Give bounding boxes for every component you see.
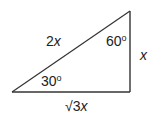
triangle-diagram: 2x 60o x 30o √3x <box>0 0 156 121</box>
base-label: √3x <box>65 99 87 113</box>
bottom-angle-value: 30 <box>41 73 57 89</box>
base-variable: x <box>80 98 87 114</box>
vertical-leg-variable: x <box>140 47 147 63</box>
hypotenuse-coefficient: 2 <box>46 33 54 49</box>
top-angle-label: 60o <box>106 34 127 48</box>
hypotenuse-variable: x <box>54 33 61 49</box>
base-radical: √3 <box>65 98 80 114</box>
top-angle-value: 60 <box>106 33 122 49</box>
hypotenuse-label: 2x <box>46 34 61 48</box>
bottom-angle-label: 30o <box>41 74 62 88</box>
bottom-angle-degree: o <box>57 73 62 83</box>
hypotenuse-line <box>12 11 130 92</box>
top-angle-degree: o <box>122 33 127 43</box>
vertical-leg-label: x <box>140 48 147 62</box>
